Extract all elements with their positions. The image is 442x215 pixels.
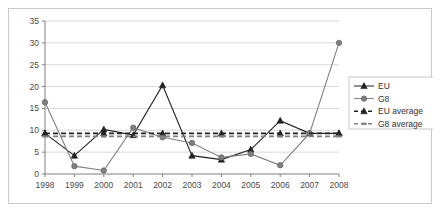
legend-item-label: EU average [378,106,423,116]
legend-swatch-marker [361,96,366,101]
x-axis-tick-label: 2001 [124,180,143,190]
legend-item-label: EU [378,81,390,91]
chart-legend: EUG8EU averageG8 average [349,77,433,129]
gridlines [45,21,339,152]
series-eu-average [42,130,342,136]
data-point [72,163,77,168]
data-point [219,155,224,160]
series-eu [42,82,342,162]
axes [42,21,339,177]
data-series-layer [42,40,342,173]
x-axis-tick-label: 2003 [183,180,202,190]
line-chart: 05101520253035 1998199920002001200220032… [9,9,433,205]
data-point [278,163,283,168]
y-axis-tick-label: 10 [30,125,40,135]
x-axis-tick-label: 2008 [330,180,349,190]
data-point [42,100,47,105]
data-point [101,135,106,137]
data-point [189,140,194,145]
series-line [45,43,339,171]
data-point [278,135,283,137]
data-point [219,135,224,137]
data-point [42,135,47,137]
x-axis-tick-label: 2005 [241,180,260,190]
data-point [159,82,165,88]
x-axis-tick-labels: 1998199920002001200220032004200520062007… [36,180,349,190]
y-axis-tick-label: 25 [30,60,40,70]
y-axis-tick-label: 20 [30,82,40,92]
data-point [160,135,165,137]
x-axis-tick-label: 2007 [300,180,319,190]
data-point [101,168,106,173]
y-axis-tick-label: 30 [30,38,40,48]
x-axis-tick-label: 2004 [212,180,231,190]
y-axis-tick-label: 35 [30,16,40,26]
data-point [248,151,253,156]
y-axis-tick-labels: 05101520253035 [30,16,40,179]
y-axis-tick-label: 5 [34,147,39,157]
chart-frame: 05101520253035 1998199920002001200220032… [8,8,432,204]
x-axis-tick-label: 1998 [36,180,55,190]
data-point [336,135,341,137]
chart-plot-area: 05101520253035 1998199920002001200220032… [9,9,433,205]
x-axis-tick-label: 2000 [94,180,113,190]
x-axis-tick-label: 1999 [65,180,84,190]
data-point [277,117,283,123]
legend-item-label: G8 [378,94,390,104]
data-point [131,125,136,130]
y-axis-tick-label: 0 [34,169,39,179]
y-axis-tick-label: 15 [30,103,40,113]
data-point [189,152,195,158]
x-axis-tick-label: 2002 [153,180,172,190]
x-axis-tick-label: 2006 [271,180,290,190]
data-point [336,40,341,45]
series-g8-average [42,135,341,137]
legend-item-label: G8 average [378,119,423,129]
series-line [45,85,339,159]
legend-swatch-marker [361,123,366,125]
